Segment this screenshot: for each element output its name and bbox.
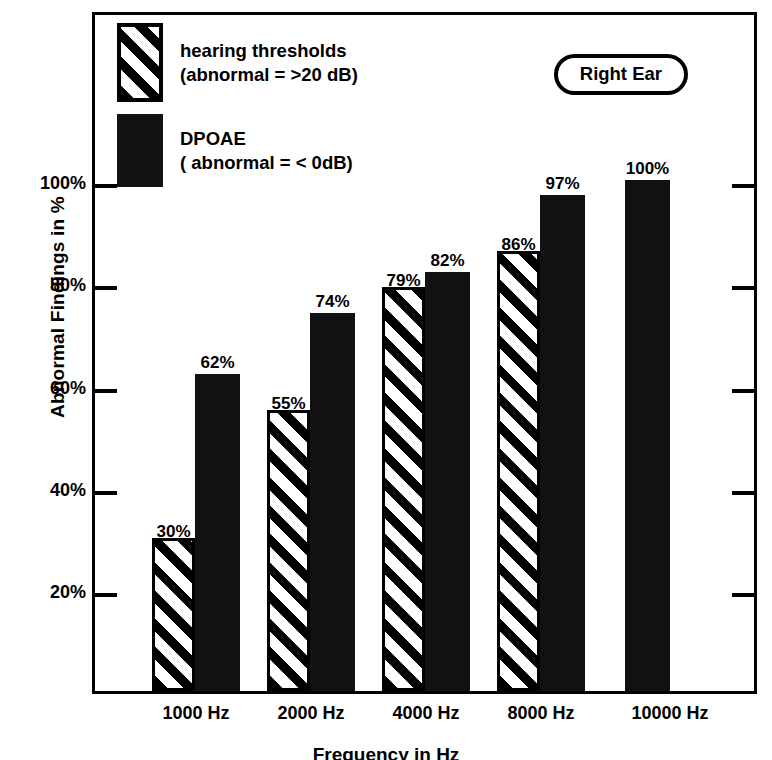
y-tick-mark-right-100 [732, 184, 754, 188]
bar-dpoae-8000hz[interactable]: 97% [540, 195, 585, 691]
plot-area: 30% 62% 55% 74% 79% 82% 86% [92, 12, 757, 694]
x-axis-title: Frequency in Hz [0, 744, 772, 760]
y-tick-mark-left-80 [95, 286, 117, 290]
x-tick-label-1000hz: 1000 Hz [162, 703, 229, 724]
bar-value-dpoae-1000hz: 62% [200, 354, 234, 371]
y-tick-label-80: 80% [14, 276, 86, 294]
y-tick-mark-right-40 [732, 491, 754, 495]
bar-value-hearing-2000hz: 55% [271, 395, 305, 412]
bar-value-hearing-4000hz: 79% [386, 272, 420, 289]
x-tick-label-8000hz: 8000 Hz [507, 703, 574, 724]
bar-dpoae-4000hz[interactable]: 82% [425, 272, 470, 691]
bar-hearing-1000hz[interactable]: 30% [152, 538, 195, 691]
bar-hearing-8000hz[interactable]: 86% [497, 251, 540, 691]
bar-value-dpoae-10000hz: 100% [626, 160, 669, 177]
legend-swatch-solid-icon [117, 114, 163, 187]
chart-canvas: Abnormal Findings in % 20% 40% 60% 80% 1… [0, 0, 772, 760]
legend-item-hearing-thresholds: hearing thresholds (abnormal = >20 dB) [117, 23, 358, 102]
x-tick-label-2000hz: 2000 Hz [277, 703, 344, 724]
bar-hearing-2000hz[interactable]: 55% [267, 410, 310, 691]
legend-swatch-hatched-icon [117, 23, 163, 102]
y-tick-mark-left-60 [95, 389, 117, 393]
bar-dpoae-1000hz[interactable]: 62% [195, 374, 240, 691]
y-tick-label-20: 20% [14, 583, 86, 601]
legend-label-dpoae-line2: ( abnormal = < 0dB) [180, 151, 353, 174]
bar-value-dpoae-8000hz: 97% [545, 175, 579, 192]
bar-dpoae-2000hz[interactable]: 74% [310, 313, 355, 691]
status-badge-right-ear: Right Ear [554, 54, 688, 95]
y-tick-mark-left-40 [95, 491, 117, 495]
y-tick-mark-right-80 [732, 286, 754, 290]
y-tick-mark-left-20 [95, 593, 117, 597]
bar-value-dpoae-2000hz: 74% [315, 293, 349, 310]
legend: hearing thresholds (abnormal = >20 dB) D… [117, 23, 358, 187]
bar-value-hearing-1000hz: 30% [156, 523, 190, 540]
y-tick-mark-right-20 [732, 593, 754, 597]
legend-label-hearing-thresholds: hearing thresholds (abnormal = >20 dB) [180, 39, 358, 86]
bar-value-dpoae-4000hz: 82% [430, 252, 464, 269]
bar-hearing-4000hz[interactable]: 79% [382, 287, 425, 691]
legend-label-hearing-line2: (abnormal = >20 dB) [180, 63, 358, 86]
bar-value-hearing-8000hz: 86% [501, 236, 535, 253]
y-tick-mark-left-100 [95, 184, 117, 188]
y-tick-mark-right-60 [732, 389, 754, 393]
legend-item-dpoae: DPOAE ( abnormal = < 0dB) [117, 114, 358, 187]
y-tick-label-40: 40% [14, 481, 86, 499]
legend-label-hearing-line1: hearing thresholds [180, 39, 358, 62]
x-tick-label-10000hz: 10000 Hz [631, 703, 708, 724]
legend-label-dpoae: DPOAE ( abnormal = < 0dB) [180, 127, 353, 174]
plot-inner: 30% 62% 55% 74% 79% 82% 86% [95, 15, 754, 691]
x-tick-label-4000hz: 4000 Hz [392, 703, 459, 724]
y-axis-tick-labels: 20% 40% 60% 80% 100% [0, 0, 86, 760]
y-tick-label-100: 100% [14, 174, 86, 192]
y-tick-label-60: 60% [14, 379, 86, 397]
legend-label-dpoae-line1: DPOAE [180, 127, 353, 150]
bar-dpoae-10000hz[interactable]: 100% [625, 180, 670, 691]
